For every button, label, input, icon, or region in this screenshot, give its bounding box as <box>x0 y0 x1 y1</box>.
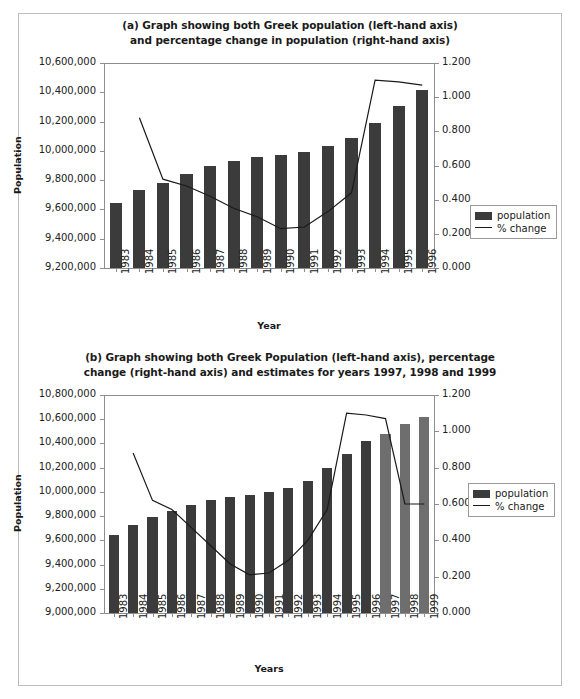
legend-label-population: population <box>497 209 550 222</box>
legend-row-population: population <box>475 209 550 222</box>
chart-b-title: (b) Graph showing both Greek Population … <box>70 350 510 380</box>
legend-label-change: % change <box>495 500 544 513</box>
percent-change-path <box>133 413 424 575</box>
legend-row-population: population <box>473 487 548 500</box>
chart-b-plot: 9,000,0009,200,0009,400,0009,600,0009,80… <box>0 387 580 699</box>
population-swatch-icon <box>473 490 490 498</box>
legend-label-change: % change <box>497 222 546 235</box>
chart-b-panel: (b) Graph showing both Greek Population … <box>0 350 580 690</box>
y-axis-title: Population <box>12 474 23 532</box>
y-axis-title: Population <box>12 136 23 194</box>
chart-a-title-line2: and percentage change in population (rig… <box>70 33 510 48</box>
chart-a-title: (a) Graph showing both Greek population … <box>70 18 510 48</box>
chart-b-title-line2: change (right-hand axis) and estimates f… <box>70 365 510 380</box>
chart-legend: population% change <box>470 205 557 239</box>
x-axis-title: Year <box>104 320 434 331</box>
chart-b-title-line1: (b) Graph showing both Greek Population … <box>70 350 510 365</box>
chart-a-title-line1: (a) Graph showing both Greek population … <box>70 18 510 33</box>
percent-change-line <box>0 387 580 699</box>
legend-row-change: % change <box>473 500 548 513</box>
population-swatch-icon <box>475 212 492 220</box>
legend-label-population: population <box>495 487 548 500</box>
legend-row-change: % change <box>475 222 550 235</box>
change-line-icon <box>475 227 492 228</box>
change-line-icon <box>473 505 490 506</box>
percent-change-path <box>139 80 422 229</box>
chart-legend: population% change <box>468 483 555 517</box>
figure-page: (a) Graph showing both Greek population … <box>0 0 580 699</box>
chart-a-panel: (a) Graph showing both Greek population … <box>0 18 580 348</box>
x-axis-title: Years <box>104 663 434 674</box>
chart-a-plot: 9,200,0009,400,0009,600,0009,800,00010,0… <box>0 55 580 355</box>
